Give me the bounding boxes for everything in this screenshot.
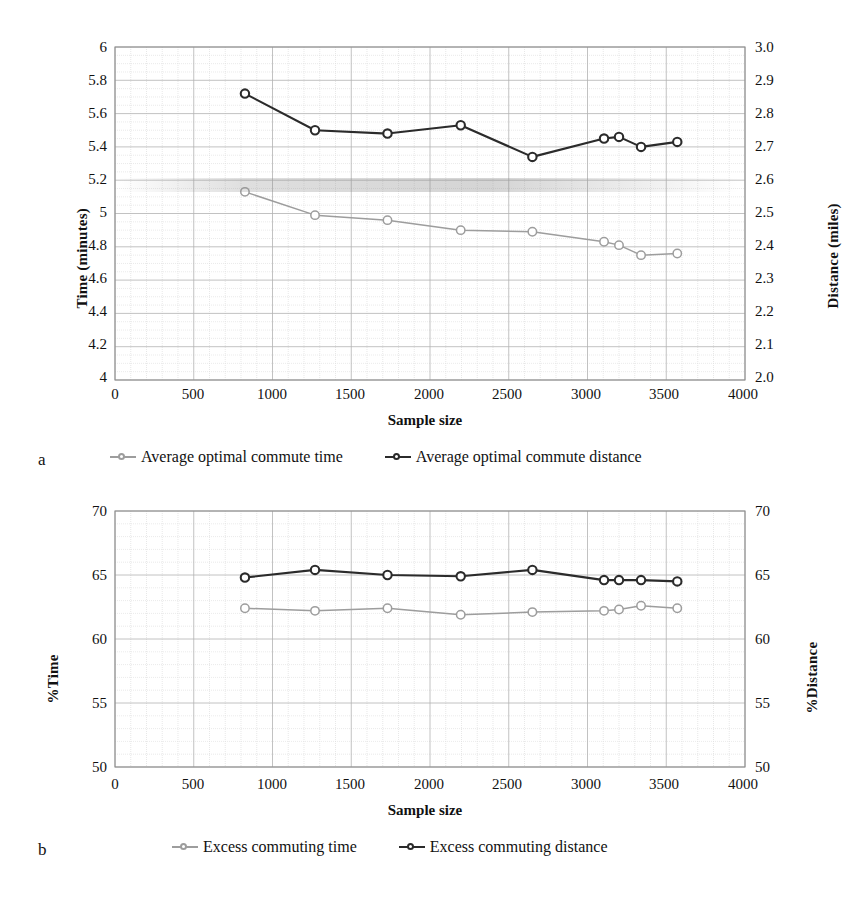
- panel-b-xtick-4: 2000: [394, 776, 464, 793]
- legend-item-excess-commuting-time[interactable]: Excess commuting time: [172, 838, 357, 856]
- panel-b-xtick-2: 1000: [237, 776, 307, 793]
- panel-b-legend: Excess commuting time Excess commuting d…: [172, 838, 607, 856]
- panel-a-ytick-left-0: 6: [55, 39, 107, 56]
- figure-panel-b: %Time %Distance 70 65 60 55 50 70 65 60 …: [0, 485, 843, 902]
- panel-a-ytick-left-10: 4: [55, 369, 107, 386]
- legend-item-avg-optimal-commute-distance[interactable]: Average optimal commute distance: [385, 448, 642, 466]
- panel-a-ytick-left-8: 4.4: [55, 303, 107, 320]
- panel-a-ytick-left-2: 5.6: [55, 105, 107, 122]
- panel-b-xtick-5: 2500: [472, 776, 542, 793]
- panel-b-xtick-1: 500: [158, 776, 228, 793]
- panel-b-ytick-left-1: 65: [50, 567, 107, 584]
- panel-a-xtick-7: 3500: [629, 386, 699, 403]
- panel-a-ytick-right-1: 2.9: [755, 72, 807, 89]
- panel-a-ytick-right-5: 2.5: [755, 204, 807, 221]
- panel-b-ytick-left-3: 55: [50, 695, 107, 712]
- panel-a-xtick-4: 2000: [394, 386, 464, 403]
- panel-b-ytick-right-2: 60: [755, 631, 812, 648]
- panel-b-letter: b: [38, 840, 47, 860]
- panel-b-ytick-right-1: 65: [755, 567, 812, 584]
- panel-b-ytick-right-3: 55: [755, 695, 812, 712]
- panel-a-ytick-right-9: 2.1: [755, 336, 807, 353]
- legend-label: Average optimal commute distance: [416, 448, 642, 466]
- legend-marker-line-circle-icon: [399, 841, 425, 853]
- panel-a-ytick-left-9: 4.2: [55, 336, 107, 353]
- panel-a-canvas: [0, 0, 843, 400]
- panel-a-xtick-8: 4000: [708, 386, 778, 403]
- panel-a-ytick-left-1: 5.8: [55, 72, 107, 89]
- legend-marker-line-circle-icon: [385, 451, 411, 463]
- panel-b-xtick-8: 4000: [708, 776, 778, 793]
- panel-a-ytick-left-7: 4.6: [55, 270, 107, 287]
- panel-a-ytick-right-7: 2.3: [755, 270, 807, 287]
- panel-b-ytick-right-4: 50: [755, 759, 812, 776]
- panel-a-xtick-6: 3000: [551, 386, 621, 403]
- panel-a-ytick-right-3: 2.7: [755, 138, 807, 155]
- panel-b-ytick-left-0: 70: [50, 503, 107, 520]
- panel-a-xtick-1: 500: [158, 386, 228, 403]
- legend-label: Excess commuting time: [203, 838, 357, 856]
- panel-a-ytick-left-5: 5: [55, 204, 107, 221]
- panel-a-ytick-right-10: 2.0: [755, 369, 807, 386]
- panel-a-x-axis-label: Sample size: [315, 412, 535, 429]
- panel-a-ytick-right-6: 2.4: [755, 237, 807, 254]
- panel-b-canvas: [0, 485, 843, 785]
- panel-b-ytick-left-4: 50: [50, 759, 107, 776]
- panel-a-ytick-left-3: 5.4: [55, 138, 107, 155]
- legend-marker-line-circle-icon: [172, 841, 198, 853]
- panel-a-plot: 6 5.8 5.6 5.4 5.2 5 4.8 4.6 4.4 4.2 4 3.…: [0, 0, 843, 400]
- legend-label: Excess commuting distance: [430, 838, 608, 856]
- panel-a-xtick-0: 0: [80, 386, 150, 403]
- legend-label: Average optimal commute time: [141, 448, 343, 466]
- panel-a-letter: a: [38, 450, 46, 470]
- legend-item-avg-optimal-commute-time[interactable]: Average optimal commute time: [110, 448, 343, 466]
- panel-a-ytick-right-4: 2.6: [755, 171, 807, 188]
- panel-a-xtick-2: 1000: [237, 386, 307, 403]
- panel-a-ytick-left-6: 4.8: [55, 237, 107, 254]
- panel-a-ytick-right-0: 3.0: [755, 39, 807, 56]
- panel-a-xtick-5: 2500: [472, 386, 542, 403]
- panel-b-xtick-0: 0: [80, 776, 150, 793]
- panel-b-plot: 70 65 60 55 50 70 65 60 55 50 0 500 1000…: [0, 485, 843, 785]
- panel-b-ytick-right-0: 70: [755, 503, 812, 520]
- panel-b-x-axis-label: Sample size: [315, 802, 535, 819]
- panel-a-ytick-right-2: 2.8: [755, 105, 807, 122]
- legend-item-excess-commuting-distance[interactable]: Excess commuting distance: [399, 838, 608, 856]
- panel-b-xtick-6: 3000: [551, 776, 621, 793]
- legend-marker-line-circle-icon: [110, 451, 136, 463]
- panel-a-ytick-right-8: 2.2: [755, 303, 807, 320]
- panel-b-xtick-3: 1500: [315, 776, 385, 793]
- panel-b-xtick-7: 3500: [629, 776, 699, 793]
- panel-b-ytick-left-2: 60: [50, 631, 107, 648]
- panel-a-xtick-3: 1500: [315, 386, 385, 403]
- panel-a-legend: Average optimal commute time Average opt…: [110, 448, 642, 466]
- figure-panel-a: Time (minutes) Distance (miles) 6 5.8 5.…: [0, 0, 843, 485]
- panel-a-ytick-left-4: 5.2: [55, 171, 107, 188]
